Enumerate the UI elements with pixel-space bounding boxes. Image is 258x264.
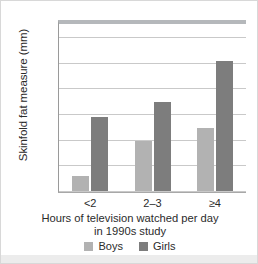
bar-girls-0 [91,117,108,192]
legend-swatch-icon [139,242,148,251]
x-tick-label: <2 [60,197,120,209]
bar-boys-1 [135,141,152,191]
legend-label: Boys [98,240,122,252]
chart-figure: Skinfold fat measure (mm) 20222426283032… [0,0,258,264]
bars-layer [59,24,246,191]
bar-girls-1 [154,102,171,191]
x-axis-title: Hours of television watched per day in 1… [9,212,251,238]
figure-bottom-strip [1,255,257,263]
bar-girls-2 [216,61,233,191]
x-axis-title-line-1: Hours of television watched per day [9,212,251,225]
x-tick-label: 2–3 [123,197,183,209]
x-tick-label: ≥4 [185,197,245,209]
chart-legend: BoysGirls [1,240,258,252]
gridline [59,191,246,192]
bar-boys-2 [197,128,214,191]
legend-swatch-icon [84,242,93,251]
y-axis-title: Skinfold fat measure (mm) [17,5,29,185]
bar-boys-0 [72,176,89,191]
legend-label: Girls [153,240,176,252]
legend-entry-girls[interactable]: Girls [139,240,176,252]
plot-area [58,20,246,193]
x-axis-title-line-2: in 1990s study [9,225,251,238]
legend-entry-boys[interactable]: Boys [84,240,122,252]
